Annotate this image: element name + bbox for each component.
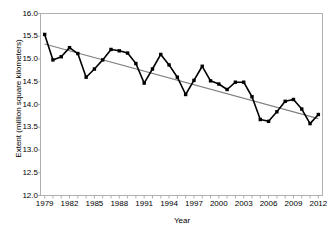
data-point-marker xyxy=(159,53,162,56)
data-point-marker xyxy=(151,67,154,70)
data-point-marker xyxy=(192,79,195,82)
data-point-marker xyxy=(142,81,145,84)
data-point-marker xyxy=(109,48,112,51)
data-point-marker xyxy=(300,107,303,110)
data-point-marker xyxy=(217,82,220,85)
data-point-marker xyxy=(317,113,320,116)
data-point-marker xyxy=(292,98,295,101)
data-point-marker xyxy=(118,49,121,52)
plot-frame xyxy=(41,14,323,196)
sea-ice-extent-chart: Extent (million square kilometers) Year … xyxy=(0,0,336,234)
data-point-marker xyxy=(267,120,270,123)
data-point-marker xyxy=(43,33,46,36)
data-point-marker xyxy=(51,58,54,61)
data-point-marker xyxy=(250,95,253,98)
data-point-marker xyxy=(234,81,237,84)
data-point-marker xyxy=(76,52,79,55)
data-point-marker xyxy=(101,58,104,61)
data-point-marker xyxy=(176,76,179,79)
data-point-marker xyxy=(84,76,87,79)
data-point-marker xyxy=(68,46,71,49)
data-point-marker xyxy=(225,88,228,91)
data-point-marker xyxy=(259,118,262,121)
data-point-marker xyxy=(60,55,63,58)
data-point-marker xyxy=(283,100,286,103)
data-point-marker xyxy=(242,81,245,84)
data-point-marker xyxy=(93,67,96,70)
data-point-marker xyxy=(184,93,187,96)
data-point-marker xyxy=(134,62,137,65)
data-point-marker xyxy=(201,65,204,68)
data-point-marker xyxy=(308,122,311,125)
data-point-marker xyxy=(209,79,212,82)
data-point-marker xyxy=(275,110,278,113)
plot-canvas xyxy=(0,0,336,234)
data-point-marker xyxy=(167,63,170,66)
data-point-marker xyxy=(126,51,129,54)
